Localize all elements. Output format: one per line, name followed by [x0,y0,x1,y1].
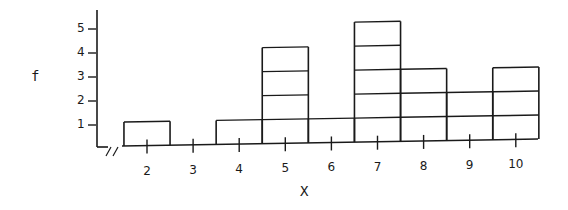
y-tick-label: 5 [77,21,85,35]
x-axis-label: X [300,183,308,199]
y-tick-label: 2 [77,93,85,107]
x-tick-label: 2 [143,164,151,178]
x-tick-label: 7 [374,160,382,174]
x-tick-label: 10 [508,157,523,171]
bar-9 [447,92,493,141]
bar-10 [493,67,539,140]
axes-group [97,10,538,156]
x-tick-label: 3 [189,163,197,177]
histogram-chart [0,0,568,210]
x-tick-label: 5 [281,161,289,175]
x-axis [122,139,538,146]
axis-break-icon [106,147,118,156]
y-tick-label: 3 [77,69,85,83]
x-tick-label: 9 [466,158,474,172]
bar-5 [262,47,308,144]
x-ticks [147,133,516,153]
bars-group [124,21,539,146]
x-tick-label: 8 [420,159,428,173]
x-tick-label: 6 [328,160,336,174]
y-axis-label: f [31,68,39,84]
bar-8 [401,69,447,142]
y-ticks [88,29,96,125]
y-tick-label: 4 [77,45,85,59]
x-tick-label: 4 [235,162,243,176]
y-tick-label: 1 [77,117,85,131]
bar-7 [354,21,400,142]
